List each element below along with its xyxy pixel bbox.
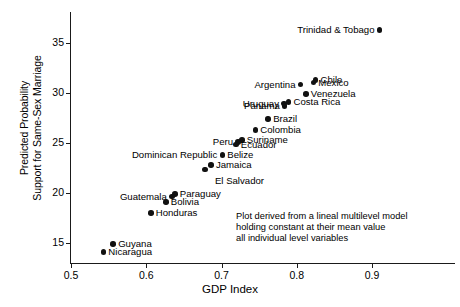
- x-tick-mark: [297, 264, 298, 268]
- x-tick-label: 0.8: [277, 269, 317, 281]
- data-point-label: Jamaica: [216, 160, 252, 170]
- data-point-label: Peru: [213, 137, 233, 147]
- x-tick-label: 0.5: [51, 269, 91, 281]
- y-tick-label: 30: [40, 86, 64, 98]
- y-tick-label: 35: [40, 36, 64, 48]
- data-point-marker: [148, 210, 154, 216]
- x-tick-mark: [222, 264, 223, 268]
- x-tick-mark: [372, 264, 373, 268]
- x-axis-line: [70, 263, 455, 264]
- annotation-line: holding constant at their mean value: [236, 222, 408, 233]
- y-tick-mark: [66, 93, 70, 94]
- x-axis-label: GDP Index: [0, 283, 460, 295]
- annotation-line: all individual level variables: [236, 233, 408, 244]
- data-point-label: Costa Rica: [293, 97, 340, 107]
- scatter-plot-figure: Predicted Probability Support for Same-S…: [0, 0, 460, 307]
- data-point-marker: [265, 116, 271, 122]
- x-tick-label: 0.6: [126, 269, 166, 281]
- y-tick-label: 25: [40, 136, 64, 148]
- data-point-label: El Salvador: [215, 176, 264, 186]
- plot-annotation: Plot derived from a lineal multilevel mo…: [236, 211, 408, 245]
- data-point-marker: [163, 199, 169, 205]
- data-point-label: Nicaragua: [108, 247, 152, 257]
- data-point-label: Mexico: [318, 78, 348, 88]
- data-point-marker: [282, 103, 288, 109]
- data-point-marker: [220, 152, 226, 158]
- y-axis-line: [70, 12, 71, 264]
- data-point-label: Trinidad & Tobago: [297, 25, 374, 35]
- data-point-marker: [208, 162, 214, 168]
- data-point-label: Brazil: [273, 114, 297, 124]
- data-point-label: Bolivia: [171, 197, 199, 207]
- data-point-marker: [101, 249, 107, 255]
- data-point-label: Honduras: [156, 208, 198, 218]
- data-point-marker: [253, 127, 259, 133]
- data-point-label: Dominican Republic: [132, 150, 217, 160]
- plot-area: 0.50.60.70.80.9 1520253035 Trinidad & To…: [0, 0, 460, 307]
- y-tick-mark: [66, 193, 70, 194]
- annotation-line: Plot derived from a lineal multilevel mo…: [236, 211, 408, 222]
- data-point-marker: [298, 82, 304, 88]
- x-tick-label: 0.7: [202, 269, 242, 281]
- data-point-marker: [202, 167, 208, 173]
- y-tick-label: 15: [40, 236, 64, 248]
- data-point-label: Argentina: [254, 80, 295, 90]
- y-tick-mark: [66, 243, 70, 244]
- data-point-label: Ecuador: [241, 140, 277, 150]
- x-tick-mark: [71, 264, 72, 268]
- data-point-marker: [311, 80, 317, 86]
- x-tick-label: 0.9: [352, 269, 392, 281]
- data-point-marker: [233, 142, 239, 148]
- data-point-label: Guatemala: [120, 192, 167, 202]
- data-point-label: Panama: [244, 101, 280, 111]
- y-tick-mark: [66, 43, 70, 44]
- y-tick-mark: [66, 143, 70, 144]
- data-point-marker: [377, 27, 383, 33]
- x-tick-mark: [146, 264, 147, 268]
- y-tick-label: 20: [40, 186, 64, 198]
